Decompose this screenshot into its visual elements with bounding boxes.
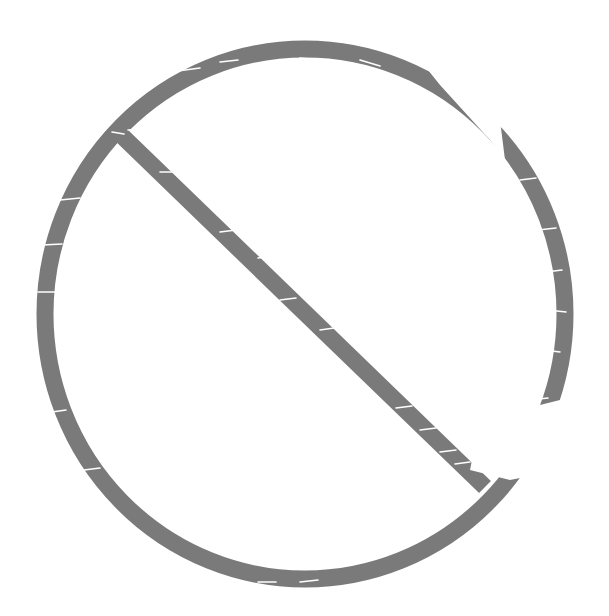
prohibited-sign-graphic (0, 0, 609, 616)
no-symbol-icon (0, 0, 609, 616)
diagonal-slash (118, 132, 485, 487)
